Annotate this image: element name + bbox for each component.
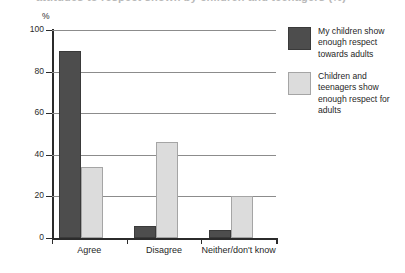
x-axis-tick bbox=[201, 238, 202, 244]
chart-legend: My children show enough respect towards … bbox=[288, 26, 405, 127]
y-axis-tick-label: 100 bbox=[4, 25, 44, 34]
bar-chart-figure: attitudes to respect shown by children a… bbox=[0, 0, 405, 273]
y-axis-tick bbox=[46, 155, 52, 156]
y-axis-tick-label: 0 bbox=[4, 233, 44, 242]
y-axis-tick bbox=[46, 113, 52, 114]
legend-item-label: Children and teenagers show enough respe… bbox=[318, 71, 405, 116]
bar-neither-don-t-know-series-2 bbox=[231, 196, 253, 238]
bar-agree-series-2 bbox=[81, 167, 103, 238]
y-axis-tick bbox=[46, 72, 52, 73]
legend-item: My children show enough respect towards … bbox=[288, 26, 405, 60]
y-axis-tick-label: 40 bbox=[4, 150, 44, 159]
legend-item-label: My children show enough respect towards … bbox=[318, 26, 405, 60]
x-axis-tick bbox=[276, 238, 277, 244]
bar-disagree-series-1 bbox=[134, 226, 156, 238]
x-axis-line bbox=[52, 238, 278, 240]
y-axis-tick-label: 60 bbox=[4, 108, 44, 117]
y-axis-tick-label: 20 bbox=[4, 191, 44, 200]
clipped-title-strip: attitudes to respect shown by children a… bbox=[0, 0, 405, 7]
light-swatch bbox=[288, 72, 311, 95]
y-axis-tick-label: 80 bbox=[4, 67, 44, 76]
y-axis-tick bbox=[46, 196, 52, 197]
gridline bbox=[52, 72, 276, 73]
x-axis-tick bbox=[52, 238, 53, 244]
bar-neither-don-t-know-series-1 bbox=[209, 230, 231, 238]
bar-disagree-series-2 bbox=[156, 142, 178, 238]
x-axis-tick bbox=[127, 238, 128, 244]
plot-area bbox=[52, 30, 276, 238]
legend-item: Children and teenagers show enough respe… bbox=[288, 71, 405, 116]
x-axis-category-label: Disagree bbox=[146, 245, 182, 255]
y-axis-tick-labels: 020406080100 bbox=[0, 0, 44, 273]
y-axis-tick bbox=[46, 30, 52, 31]
gridline bbox=[52, 113, 276, 114]
gridline bbox=[52, 30, 276, 31]
x-axis-category-label: Agree bbox=[77, 245, 101, 255]
dark-swatch bbox=[288, 27, 311, 50]
bar-agree-series-1 bbox=[59, 51, 81, 238]
x-axis-category-label: Neither/don't know bbox=[202, 245, 276, 255]
chart-title: attitudes to respect shown by children a… bbox=[36, 0, 346, 3]
